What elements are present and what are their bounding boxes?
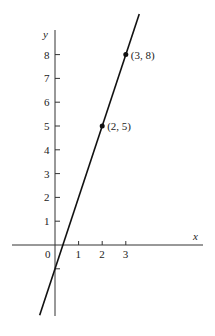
y-tick-label: 5 [44,120,50,132]
point-label: (3, 8) [131,49,155,62]
y-tick-label: 8 [44,49,50,61]
data-point [100,124,105,129]
y-tick-label: 3 [44,168,50,180]
x-ticks: 123 [76,241,129,260]
x-tick-label: 3 [123,248,129,260]
x-tick-label: 2 [99,248,105,260]
x-axis-label: x [192,230,198,242]
line-graph: 123 12345678 y x 0 (2, 5)(3, 8) [0,0,215,336]
origin-label: 0 [45,248,51,260]
y-axis-label: y [42,28,48,40]
data-points: (2, 5)(3, 8) [100,49,155,133]
y-tick-label: 2 [44,191,50,203]
y-tick-label: 6 [44,96,50,108]
data-point [123,52,128,57]
y-tick-label: 1 [44,215,50,227]
y-tick-label: 4 [44,144,50,156]
y-tick-label: 7 [44,72,50,84]
x-tick-label: 1 [76,248,82,260]
y-ticks: 12345678 [44,49,60,269]
point-label: (2, 5) [107,120,131,133]
